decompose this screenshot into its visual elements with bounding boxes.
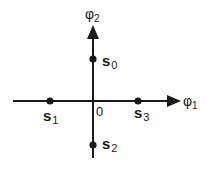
origin-label: 0 bbox=[96, 104, 103, 119]
phi2-arrowhead-icon bbox=[87, 25, 99, 39]
point-s1 bbox=[46, 97, 53, 104]
constellation-diagram: φ2 φ1 0 s0 s1 s3 s2 bbox=[0, 0, 207, 170]
s0-label: s0 bbox=[102, 52, 117, 71]
point-s0 bbox=[89, 55, 96, 62]
phi2-label: φ2 bbox=[85, 6, 100, 24]
s2-label: s2 bbox=[102, 135, 117, 154]
s3-label: s3 bbox=[134, 104, 149, 123]
s1-label: s1 bbox=[43, 107, 58, 126]
phi1-arrowhead-icon bbox=[167, 95, 181, 107]
phi1-label: φ1 bbox=[183, 93, 198, 111]
point-s2 bbox=[89, 141, 96, 148]
